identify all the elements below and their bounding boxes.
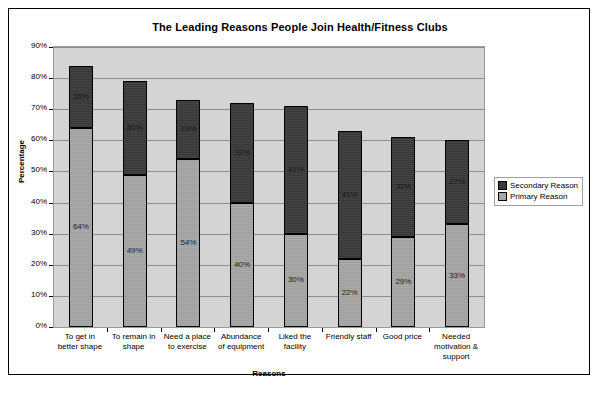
bar-value-label: 40%	[234, 261, 250, 269]
bar-value-label: 33%	[449, 272, 465, 280]
bar-group[interactable]: 19%54%	[176, 100, 200, 327]
y-axis-tick-label: 50%	[13, 165, 47, 174]
bar-segment-secondary[interactable]: 27%	[445, 140, 469, 224]
legend-entry[interactable]: Primary Reason	[498, 191, 578, 202]
bar-segment-secondary[interactable]: 32%	[391, 137, 415, 237]
y-axis-tick-mark	[49, 296, 53, 297]
bar-value-label: 19%	[181, 125, 197, 133]
chart-legend: Secondary ReasonPrimary Reason	[494, 177, 583, 206]
legend-swatch-icon	[498, 181, 507, 190]
x-axis-category-label: Liked thefacility	[264, 332, 326, 352]
bar-group[interactable]: 41%30%	[284, 106, 308, 327]
y-axis-tick-label: 60%	[13, 134, 47, 143]
x-axis-category-label: To remain inshape	[103, 332, 165, 352]
bar-segment-secondary[interactable]: 41%	[284, 106, 308, 234]
y-axis-tick-mark	[49, 47, 53, 48]
y-axis-tick-label: 40%	[13, 197, 47, 206]
bar-value-label: 41%	[342, 191, 358, 199]
bar-segment-primary[interactable]: 22%	[338, 259, 362, 327]
bar-value-label: 22%	[342, 289, 358, 297]
plot-area: 20%64%30%49%19%54%32%40%41%30%41%22%32%2…	[53, 46, 485, 328]
bar-segment-primary[interactable]: 33%	[445, 224, 469, 327]
chart-frame: The Leading Reasons People Join Health/F…	[8, 8, 590, 375]
x-axis-category-label: Need a placeto exercise	[156, 332, 218, 352]
bar-segment-primary[interactable]: 30%	[284, 234, 308, 327]
bar-segment-primary[interactable]: 40%	[230, 203, 254, 327]
bar-segment-secondary[interactable]: 41%	[338, 131, 362, 259]
bar-group[interactable]: 20%64%	[69, 66, 93, 327]
legend-entry[interactable]: Secondary Reason	[498, 180, 578, 191]
y-axis-tick-mark	[49, 203, 53, 204]
y-axis-tick-label: 90%	[13, 41, 47, 50]
legend-swatch-icon	[498, 192, 507, 201]
bar-value-label: 64%	[73, 223, 89, 231]
y-axis-tick-label: 0%	[13, 321, 47, 330]
y-axis-tick-label: 80%	[13, 72, 47, 81]
bar-value-label: 27%	[449, 178, 465, 186]
y-axis-tick-mark	[49, 109, 53, 110]
chart-title: The Leading Reasons People Join Health/F…	[9, 21, 591, 33]
y-axis-tick-mark	[49, 171, 53, 172]
y-axis-tick-label: 70%	[13, 103, 47, 112]
bar-value-label: 30%	[288, 276, 304, 284]
bar-segment-secondary[interactable]: 30%	[123, 81, 147, 174]
bar-value-label: 49%	[127, 247, 143, 255]
x-axis-category-label: Good price	[371, 332, 433, 342]
bar-group[interactable]: 32%29%	[391, 137, 415, 327]
y-axis-tick-label: 20%	[13, 259, 47, 268]
bar-segment-primary[interactable]: 64%	[69, 128, 93, 327]
bar-segment-primary[interactable]: 54%	[176, 159, 200, 327]
x-axis-category-label: Abundanceof equipment	[210, 332, 272, 352]
bar-value-label: 41%	[288, 166, 304, 174]
bar-segment-primary[interactable]: 29%	[391, 237, 415, 327]
y-axis-tick-mark	[49, 78, 53, 79]
y-axis-tick-label: 30%	[13, 228, 47, 237]
bar-value-label: 32%	[396, 183, 412, 191]
y-axis-tick-mark	[49, 265, 53, 266]
y-axis-tick-mark	[49, 140, 53, 141]
bar-value-label: 29%	[396, 278, 412, 286]
bar-group[interactable]: 32%40%	[230, 103, 254, 327]
bar-group[interactable]: 30%49%	[123, 81, 147, 327]
x-axis-category-label: Neededmotivation &support	[425, 332, 487, 362]
y-axis-tick-label: 10%	[13, 290, 47, 299]
bars-layer: 20%64%30%49%19%54%32%40%41%30%41%22%32%2…	[54, 47, 484, 327]
bar-group[interactable]: 41%22%	[338, 131, 362, 327]
bar-segment-secondary[interactable]: 20%	[69, 66, 93, 128]
bar-segment-secondary[interactable]: 19%	[176, 100, 200, 159]
bar-value-label: 30%	[127, 124, 143, 132]
bar-segment-primary[interactable]: 49%	[123, 175, 147, 327]
bar-value-label: 20%	[73, 93, 89, 101]
bar-value-label: 32%	[234, 149, 250, 157]
y-axis-tick-mark	[49, 327, 53, 328]
bar-segment-secondary[interactable]: 32%	[230, 103, 254, 203]
legend-label: Primary Reason	[510, 192, 567, 201]
legend-label: Secondary Reason	[510, 181, 578, 190]
y-axis-tick-mark	[49, 234, 53, 235]
x-axis-title: Reasons	[53, 369, 485, 378]
x-axis-category-label: To get inbetter shape	[49, 332, 111, 352]
x-axis-category-label: Friendly staff	[318, 332, 380, 342]
bar-group[interactable]: 27%33%	[445, 140, 469, 327]
bar-value-label: 54%	[181, 239, 197, 247]
